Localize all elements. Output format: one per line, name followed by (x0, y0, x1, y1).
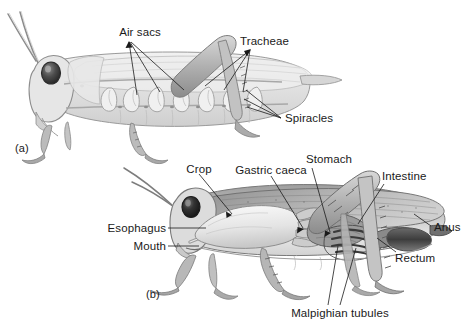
label-anus: Anus (434, 221, 461, 233)
label-crop: Crop (186, 163, 211, 175)
abdominal-segments-b (268, 254, 374, 270)
label-spiracles: Spiracles (285, 112, 333, 124)
label-air-sacs: Air sacs (119, 26, 161, 38)
compound-eye-a (42, 62, 61, 84)
panel-b-artwork (124, 168, 452, 305)
front-leg-a-2 (65, 122, 71, 150)
label-rectum: Rectum (395, 252, 435, 264)
panel-a-artwork (8, 11, 342, 164)
eye-highlight-a (45, 65, 51, 72)
front-leg-b-2 (209, 254, 217, 288)
anatomy-figure: Air sacs Tracheae Spiracles (a) Crop Gas… (0, 0, 470, 331)
abdomen-tip-a (300, 75, 342, 85)
panel-caption-a: (a) (15, 143, 29, 155)
label-malpighian-tubules: Malpighian tubules (291, 307, 389, 319)
antennae-b (124, 168, 174, 207)
label-tracheae: Tracheae (240, 35, 289, 47)
front-leg-b-1 (175, 255, 196, 288)
label-stomach: Stomach (306, 153, 352, 165)
label-gastric-caeca: Gastric caeca (235, 164, 307, 176)
eye-highlight-b (185, 200, 191, 207)
label-esophagus: Esophagus (108, 222, 166, 234)
panel-caption-b: (b) (146, 289, 160, 301)
compound-eye-b (182, 197, 200, 218)
label-mouth: Mouth (134, 240, 166, 252)
label-intestine: Intestine (382, 170, 426, 182)
